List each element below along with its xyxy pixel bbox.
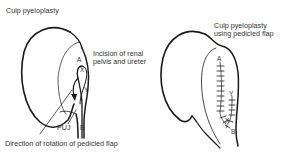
rotation-label: Direction of rotation of pedicled flap <box>5 140 118 148</box>
marker-b-left: B <box>80 124 84 131</box>
marker-x-right: X <box>225 117 229 124</box>
marker-b-right: B <box>231 128 235 135</box>
marker-x-left: X <box>80 66 84 73</box>
left-kidney <box>22 28 89 138</box>
marker-y-left: Y <box>84 86 88 93</box>
marker-a-left: A <box>77 56 81 63</box>
culp-pyeloplasty-diagram: Culp pyeloplasty Incision of renal pelvi… <box>0 0 290 158</box>
right-panel-title-line2: using pedicled flap <box>214 30 274 38</box>
right-kidney <box>161 31 239 148</box>
incision-label-line2: pelvis and ureter <box>93 58 146 66</box>
marker-a-right: A <box>217 55 221 62</box>
marker-y-right: Y <box>229 90 233 97</box>
puj-label: PUJ <box>57 124 71 132</box>
left-panel-title: Culp pyeloplasty <box>6 7 59 15</box>
